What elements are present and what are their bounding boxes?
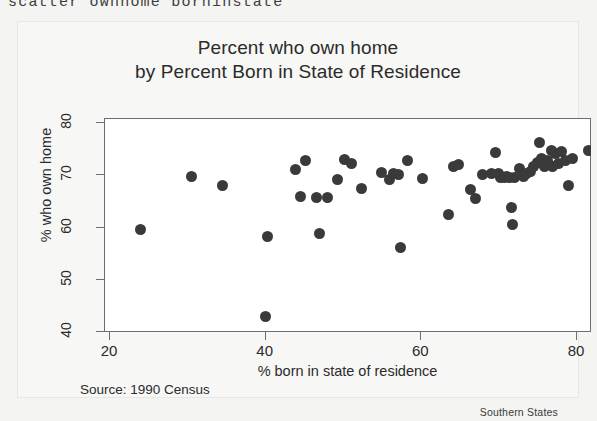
stata-command-line: scatter ownhome borninstate: [8, 0, 283, 11]
data-point: [567, 153, 578, 164]
data-point: [186, 171, 197, 182]
data-point: [356, 183, 367, 194]
x-axis-tick-label: 60: [395, 342, 445, 359]
data-point: [295, 191, 306, 202]
data-point: [470, 193, 481, 204]
data-point: [443, 209, 454, 220]
data-point: [506, 202, 517, 213]
scanned-page: scatter ownhome borninstate Percent who …: [0, 0, 597, 421]
data-point: [300, 155, 311, 166]
data-point: [135, 224, 146, 235]
data-point: [583, 145, 591, 156]
y-axis-label: % who own home: [38, 95, 54, 275]
y-axis-tick-label: 70: [58, 153, 74, 193]
x-axis-tick: [420, 332, 421, 340]
y-axis-tick: [96, 331, 104, 332]
chart-title-line-1: Percent who own home: [198, 37, 399, 58]
data-point: [290, 164, 301, 175]
data-point: [417, 173, 428, 184]
data-point: [393, 169, 404, 180]
scatter-plot-figure: Percent who own home by Percent Born in …: [18, 22, 578, 397]
x-axis-tick: [109, 332, 110, 340]
y-axis-tick-label: 50: [58, 258, 74, 298]
data-point: [262, 231, 273, 242]
y-axis-tick: [96, 227, 104, 228]
data-point: [395, 242, 406, 253]
chart-title: Percent who own home by Percent Born in …: [18, 36, 578, 84]
data-point: [534, 137, 545, 148]
scatter-points-layer: [104, 118, 591, 332]
data-point: [314, 228, 325, 239]
x-axis-tick: [576, 332, 577, 340]
y-axis-tick: [96, 122, 104, 123]
x-axis-tick: [265, 332, 266, 340]
x-axis-tick-label: 40: [240, 342, 290, 359]
y-axis-tick: [96, 279, 104, 280]
data-point: [311, 192, 322, 203]
data-point: [507, 219, 518, 230]
data-point: [453, 159, 464, 170]
data-point: [402, 155, 413, 166]
data-point: [490, 147, 501, 158]
data-point: [217, 180, 228, 191]
data-point: [260, 311, 271, 322]
chart-title-line-2: by Percent Born in State of Residence: [18, 60, 578, 84]
data-point: [346, 158, 357, 169]
x-axis-label: % born in state of residence: [104, 363, 591, 379]
x-axis-tick-label: 20: [84, 342, 134, 359]
y-axis-tick-label: 40: [58, 310, 74, 350]
data-point: [332, 174, 343, 185]
source-note: Source: 1990 Census: [80, 382, 210, 397]
data-point: [322, 192, 333, 203]
y-axis-tick-label: 80: [58, 101, 74, 141]
y-axis-tick: [96, 174, 104, 175]
region-note: Southern States: [480, 406, 558, 418]
y-axis-tick-label: 60: [58, 206, 74, 246]
data-point: [563, 180, 574, 191]
x-axis-tick-label: 80: [551, 342, 597, 359]
